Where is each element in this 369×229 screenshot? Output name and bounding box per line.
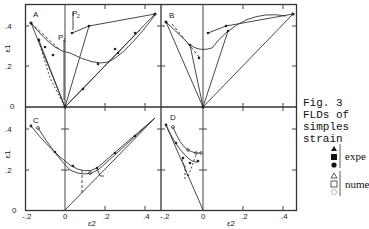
xtick-c-02: .2 xyxy=(103,212,110,221)
caption-line-1: Fig. 3 xyxy=(303,97,343,109)
ytick-top-0: 0 xyxy=(10,102,14,111)
xlabel-d: ε2 xyxy=(227,219,235,228)
xtick-d-04: .4 xyxy=(281,212,288,221)
xtick-c-04: .4 xyxy=(143,212,150,221)
panel-a-label: A xyxy=(33,10,39,19)
ytick-bottom-0: 0 xyxy=(12,206,16,215)
panel-a-markers xyxy=(29,12,156,108)
ylabel-bottom: ε1 xyxy=(3,150,12,158)
panel-c-label: C xyxy=(33,116,39,125)
panel-b-curves xyxy=(166,14,293,107)
ytick-top-04: .4 xyxy=(5,22,12,31)
xtick-d-neg02: -.2 xyxy=(160,212,169,221)
legend-experimental-label: expe xyxy=(345,150,366,162)
ylabel-top: ε1 xyxy=(3,44,12,52)
xtick-c-0: 0 xyxy=(63,212,67,221)
svg-text:1: 1 xyxy=(63,37,66,43)
svg-text:2: 2 xyxy=(77,13,80,19)
xlabel-c: ε2 xyxy=(88,219,96,228)
caption-line-3: simples xyxy=(303,121,349,133)
legend-numerical-label: nume xyxy=(345,178,369,190)
panel-a-curves xyxy=(31,12,155,107)
caption-line-2: FLDs of xyxy=(303,109,349,121)
panel-b-markers xyxy=(164,12,294,108)
panel-c-markers xyxy=(30,125,137,170)
panel-c-curves xyxy=(31,118,155,210)
panel-b-label: B xyxy=(169,11,174,20)
ytick-bottom-04: .4 xyxy=(5,125,12,134)
panel-d-curves xyxy=(166,125,203,210)
caption-line-4: strain xyxy=(303,133,343,145)
xtick-d-0: 0 xyxy=(201,212,205,221)
panel-d-label: D xyxy=(170,113,176,122)
xtick-c-neg02: -.2 xyxy=(22,212,31,221)
ytick-top-02: .2 xyxy=(5,62,12,71)
xtick-d-02: .2 xyxy=(241,212,248,221)
ytick-bottom-02: .2 xyxy=(5,166,12,175)
